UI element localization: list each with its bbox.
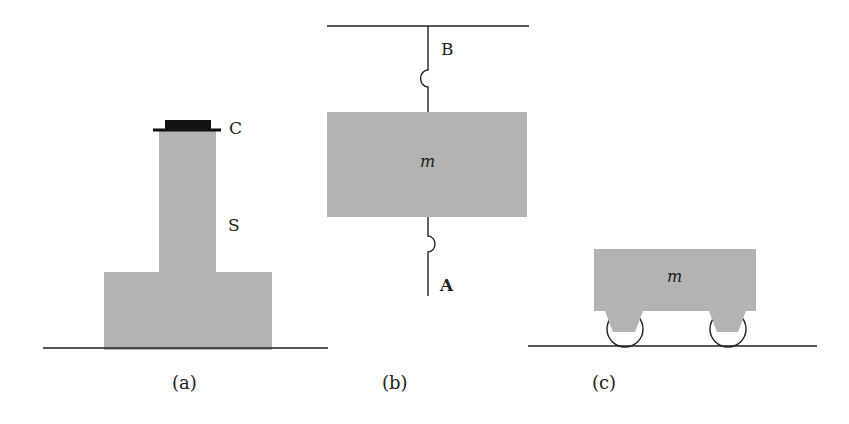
caption-a: (a) (172, 372, 197, 393)
cap-block (165, 120, 211, 130)
physics-figure: C S (a) B A m (b) m (c) (0, 0, 849, 424)
panel-c: m (c) (528, 249, 817, 393)
lower-string (428, 217, 435, 296)
hanging-mass-label: m (420, 152, 435, 171)
stand-column (159, 131, 216, 273)
cap-label: C (229, 118, 242, 138)
cart-mass-label: m (667, 267, 682, 286)
upper-string-label: B (441, 39, 454, 59)
stand-base (104, 272, 272, 350)
upper-string (421, 26, 428, 112)
cart-body (594, 249, 756, 332)
caption-c: (c) (592, 372, 616, 393)
stand-label: S (228, 215, 240, 235)
panel-b: B A m (b) (327, 26, 529, 393)
panel-a: C S (a) (43, 118, 328, 393)
lower-string-label: A (439, 275, 454, 295)
caption-b: (b) (382, 372, 408, 393)
